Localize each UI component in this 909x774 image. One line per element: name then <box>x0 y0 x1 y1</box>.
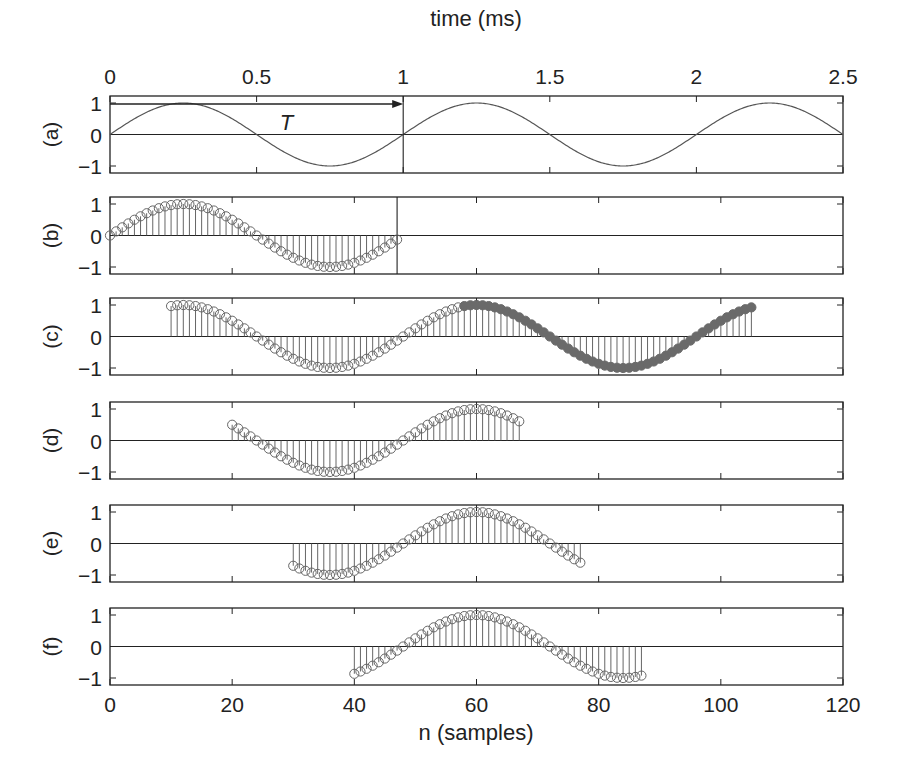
y-tick-label: 1 <box>90 501 102 524</box>
panel-label: (a) <box>39 122 62 148</box>
y-tick-label: 1 <box>90 193 102 216</box>
filled-marker <box>747 303 756 312</box>
figure: time (ms) 00.511.522.5 −101(a)T−101(b)−1… <box>0 0 909 774</box>
bottom-tick-label: 60 <box>465 693 488 716</box>
bottom-tick-label: 80 <box>587 693 610 716</box>
top-axis-label: time (ms) <box>430 6 522 31</box>
y-tick-label: −1 <box>78 461 102 484</box>
y-tick-label: 1 <box>90 294 102 317</box>
bottom-axis-ticks: 020406080100120 <box>104 693 860 716</box>
y-tick-label: 0 <box>90 124 102 147</box>
panel-d: −101(d) <box>39 398 843 484</box>
top-axis-ticks: 00.511.522.5 <box>104 65 857 88</box>
y-tick-label: 0 <box>90 636 102 659</box>
top-tick-label: 2 <box>691 65 703 88</box>
top-tick-label: 1 <box>397 65 409 88</box>
bottom-tick-label: 0 <box>104 693 116 716</box>
bottom-axis-label: n (samples) <box>419 720 534 745</box>
period-label: T <box>280 110 295 135</box>
y-tick-label: 0 <box>90 533 102 556</box>
y-tick-label: 1 <box>90 604 102 627</box>
top-tick-label: 1.5 <box>535 65 564 88</box>
bottom-tick-label: 100 <box>703 693 738 716</box>
y-tick-label: −1 <box>78 564 102 587</box>
y-tick-label: −1 <box>78 357 102 380</box>
top-tick-label: 0 <box>104 65 116 88</box>
y-tick-label: −1 <box>78 667 102 690</box>
panel-a: −101(a)T <box>39 92 843 178</box>
panel-e: −101(e) <box>39 501 843 587</box>
y-tick-label: −1 <box>78 155 102 178</box>
panel-label: (d) <box>39 428 62 454</box>
y-tick-label: 1 <box>90 398 102 421</box>
panels: −101(a)T−101(b)−101(c)−101(d)−101(e)−101… <box>39 92 843 690</box>
panel-label: (c) <box>39 324 62 349</box>
bottom-tick-label: 20 <box>220 693 243 716</box>
panel-b: −101(b) <box>39 193 843 279</box>
panel-label: (e) <box>39 531 62 557</box>
y-tick-label: −1 <box>78 256 102 279</box>
arrow-head-icon <box>392 100 403 108</box>
y-tick-label: 0 <box>90 430 102 453</box>
bottom-tick-label: 40 <box>343 693 366 716</box>
top-tick-label: 2.5 <box>828 65 857 88</box>
y-tick-label: 1 <box>90 92 102 115</box>
panel-label: (f) <box>39 637 62 657</box>
top-tick-label: 0.5 <box>242 65 271 88</box>
panel-label: (b) <box>39 223 62 249</box>
panel-f: −101(f) <box>39 604 843 690</box>
y-tick-label: 0 <box>90 225 102 248</box>
y-tick-label: 0 <box>90 326 102 349</box>
bottom-tick-label: 120 <box>825 693 860 716</box>
panel-c: −101(c) <box>39 294 843 380</box>
